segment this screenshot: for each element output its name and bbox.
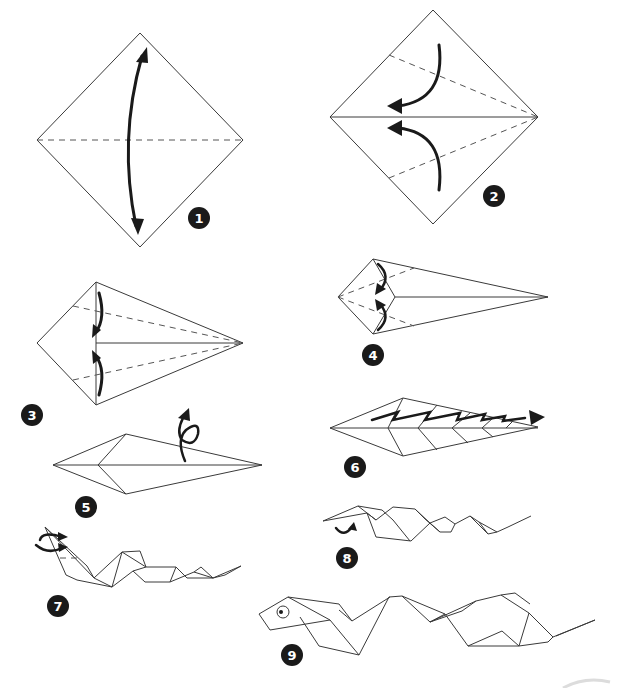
step-7-badge: 7 xyxy=(47,595,69,617)
svg-text:1: 1 xyxy=(194,211,203,226)
step-4-diagram xyxy=(338,259,548,334)
step-3-badge: 3 xyxy=(21,404,43,426)
step-5-badge: 5 xyxy=(75,496,97,518)
svg-text:4: 4 xyxy=(368,348,377,363)
step-6-diagram xyxy=(330,398,545,456)
step-9-badge: 9 xyxy=(281,644,303,666)
svg-text:7: 7 xyxy=(53,599,62,614)
step-6-badge: 6 xyxy=(344,456,366,478)
svg-text:6: 6 xyxy=(350,460,359,475)
step-9-diagram xyxy=(259,593,595,655)
step-2-badge: 2 xyxy=(483,185,505,207)
step-8-badge: 8 xyxy=(336,547,358,569)
step-3-diagram xyxy=(37,282,243,405)
svg-text:5: 5 xyxy=(81,500,90,515)
step-2-diagram xyxy=(330,10,538,224)
step-1-badge: 1 xyxy=(188,207,210,229)
svg-text:8: 8 xyxy=(342,551,351,566)
watermark-arc xyxy=(563,680,610,688)
step-1-diagram xyxy=(37,33,243,247)
step-8-diagram xyxy=(323,506,531,541)
origami-snake-diagram: 1 2 3 xyxy=(0,0,617,688)
step-4-badge: 4 xyxy=(362,344,384,366)
svg-text:2: 2 xyxy=(489,189,498,204)
svg-text:9: 9 xyxy=(287,648,296,663)
svg-text:3: 3 xyxy=(27,408,36,423)
step-5-diagram xyxy=(53,408,262,494)
step-7-diagram xyxy=(36,527,241,587)
